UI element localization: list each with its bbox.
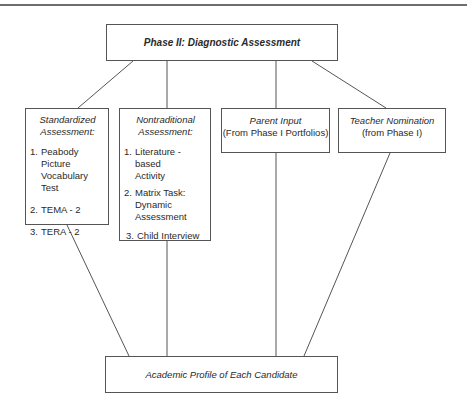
branch-title: Teacher Nomination: [339, 115, 445, 127]
branch-node-teacher-nomination: Teacher Nomination (from Phase I): [338, 108, 446, 153]
list-item-text: Matrix Task:: [135, 187, 207, 199]
list-item-text: Child Interview: [137, 230, 207, 242]
branch-title-line2: Assessment:: [30, 126, 105, 138]
branch-node-parent-input: Parent Input (From Phase I Portfolios): [221, 108, 330, 153]
list-item: 1. Peabody Picture Vocabulary Test: [30, 146, 105, 194]
list-item-number: 3.: [30, 226, 41, 238]
list-item-number: 1.: [30, 146, 41, 194]
branch-node-standardized-assessment: Standardized Assessment: 1. Peabody Pict…: [25, 108, 109, 225]
list-item-text: Peabody Picture: [41, 146, 105, 170]
list-item-text: Literature - based: [135, 146, 207, 170]
sink-node-label: Academic Profile of Each Candidate: [145, 369, 297, 381]
branch-node-nontraditional-assessment: Nontraditional Assessment: 1. Literature…: [119, 108, 211, 241]
list-item: 2. TEMA - 2: [30, 204, 105, 216]
list-item-number: 1.: [124, 146, 135, 182]
connector-root-standardized: [78, 61, 133, 108]
list-item-number: 3.: [126, 230, 137, 242]
list-item: 1. Literature - based Activity: [124, 146, 207, 182]
connector-teacher-profile: [304, 153, 390, 356]
list-item-number: 2.: [30, 204, 41, 216]
assessment-list: 1. Literature - based Activity 2. Matrix…: [124, 146, 207, 242]
branch-title-line1: Standardized: [30, 114, 105, 126]
list-item-text: TERA - 2: [41, 226, 105, 238]
list-item: 3. Child Interview: [124, 230, 207, 242]
branch-title-line1: Nontraditional: [124, 114, 207, 126]
connector-root-teacher: [312, 61, 386, 108]
branch-title: Parent Input: [222, 115, 329, 127]
branch-subtitle: (From Phase I Portfolios): [222, 127, 329, 139]
assessment-list: 1. Peabody Picture Vocabulary Test 2. TE…: [30, 146, 105, 238]
root-node-phase-ii: Phase II: Diagnostic Assessment: [106, 24, 338, 61]
list-item-number: 2.: [124, 187, 135, 223]
list-item: 2. Matrix Task: Dynamic Assessment: [124, 187, 207, 223]
branch-title-line2: Assessment:: [124, 126, 207, 138]
list-item-text: Activity: [135, 170, 207, 182]
branch-subtitle: (from Phase I): [339, 127, 445, 139]
root-node-label: Phase II: Diagnostic Assessment: [144, 37, 300, 49]
list-item-text: Vocabulary Test: [41, 170, 105, 194]
list-item-text: Dynamic: [135, 199, 207, 211]
list-item: 3. TERA - 2: [30, 226, 105, 238]
list-item-text: Assessment: [135, 211, 207, 223]
sink-node-academic-profile: Academic Profile of Each Candidate: [105, 356, 338, 393]
list-item-text: TEMA - 2: [41, 204, 105, 216]
connector-standardized-profile: [67, 225, 129, 356]
